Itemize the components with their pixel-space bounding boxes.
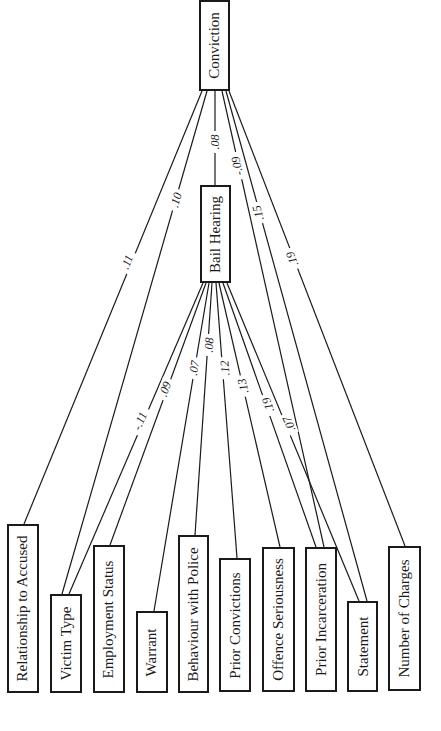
edge-coefficient: .12	[217, 356, 233, 379]
node-victim-type: Victim Type	[50, 594, 82, 693]
edge-coefficient: .11	[116, 249, 137, 275]
edge-bail_hearing-to-prior_convictions	[216, 283, 237, 558]
edge-coefficient: .09	[155, 376, 176, 401]
edge-coefficient: .19	[282, 246, 303, 272]
node-label: Victim Type	[58, 606, 75, 680]
node-prior-incarceration: Prior Incarceration	[305, 547, 337, 692]
node-offence-seriousness: Offence Seriousness	[262, 547, 295, 692]
edge-coefficient: .10	[166, 187, 186, 212]
node-behaviour-with-police: Behaviour with Police	[178, 535, 209, 693]
node-label: Offence Seriousness	[270, 558, 287, 681]
node-label: Prior Incarceration	[313, 563, 330, 676]
edge-conviction-to-number_charges	[229, 91, 405, 546]
node-label: Prior Convictions	[227, 572, 244, 678]
edge-coefficient: -.11	[128, 405, 152, 436]
edge-coefficient: .07	[185, 356, 202, 380]
svg-text:-.09: -.09	[228, 155, 246, 177]
node-label: Number of Charges	[396, 559, 413, 677]
edge-coefficient: .19	[258, 392, 279, 417]
node-statement: Statement	[347, 601, 378, 692]
node-label: Behaviour with Police	[185, 547, 202, 681]
node-label: Warrant	[144, 628, 161, 676]
node-label: Employment Status	[101, 560, 118, 678]
edge-conviction-to-victim_type	[62, 91, 207, 594]
edge-bail_hearing-to-employment	[110, 283, 206, 545]
edge-coefficient: .13	[234, 374, 253, 399]
node-bail-hearing: Bail Hearing	[200, 185, 231, 283]
svg-text:.13: .13	[234, 377, 251, 395]
node-prior-convictions: Prior Convictions	[219, 558, 251, 692]
svg-text:.12: .12	[217, 360, 232, 376]
node-label: Bail Hearing	[207, 195, 224, 272]
node-warrant: Warrant	[136, 611, 168, 693]
node-conviction: Conviction	[199, 0, 230, 91]
node-relationship-to-accused: Relationship to Accused	[7, 524, 39, 693]
node-label: Conviction	[206, 12, 223, 79]
node-number-of-charges: Number of Charges	[388, 546, 421, 691]
path-diagram: .11.10.08-.09.15.19-.11.09.07.08.12.13.1…	[0, 0, 441, 731]
svg-text:.08: .08	[202, 337, 217, 353]
node-label: Statement	[354, 617, 371, 677]
node-label: Relationship to Accused	[15, 536, 32, 682]
edge-conviction-to-statement	[226, 91, 367, 601]
edge-bail_hearing-to-behaviour	[195, 283, 212, 535]
edge-conviction-to-relationship	[24, 91, 202, 524]
svg-text:.08: .08	[208, 135, 222, 150]
edge-coefficient: .08	[201, 334, 216, 357]
edge-coefficient: .08	[208, 131, 222, 153]
node-employment-status: Employment Status	[93, 545, 125, 693]
